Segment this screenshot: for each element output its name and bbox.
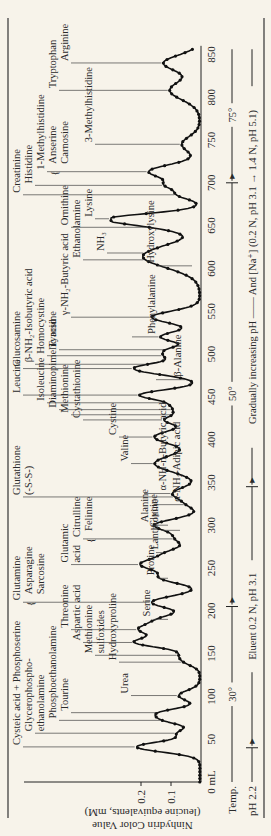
peak-label-text: sulfoxides [95,610,106,653]
data-point [176,270,179,273]
data-point [180,691,183,694]
temp-label: Temp. [226,786,238,814]
data-point [178,657,181,660]
temp-segment-label: 50° [227,386,238,401]
data-point [172,411,175,414]
data-point [161,359,164,362]
data-point [154,750,157,753]
peak-label-text: Anserine [47,125,58,163]
data-point [196,301,199,304]
data-point [179,78,182,81]
data-point [147,171,150,174]
data-point [164,65,167,68]
data-point [171,407,174,410]
peak-label-text: Glucosamine [11,311,22,367]
data-point [183,147,186,150]
data-point [190,507,193,510]
data-point [139,630,142,633]
data-point [181,236,184,239]
x-tick-label: 700 [205,174,217,191]
data-point [191,48,194,51]
data-point [175,96,178,99]
data-point [178,544,181,547]
data-point [180,75,183,78]
data-point [171,68,174,71]
peak-label: Ethanolamine [71,199,143,260]
elution-conditions: Temp.30°▸50°▸75°pH 2.2▸Eluent 0.2 N, pH … [225,49,259,816]
data-point [175,650,178,653]
brace-glyph: { [25,601,36,606]
data-point [188,198,191,201]
data-point [141,643,144,646]
data-point [182,661,185,664]
peak-label: Lysine [83,188,109,218]
data-point [183,51,186,54]
ph-label: pH 2.2 [246,786,258,816]
x-tick-label: 350 [205,474,217,491]
data-point [140,565,143,568]
data-point [168,404,171,407]
peak-label-text: Sarcosine [35,553,46,594]
peak-label: Arginine [59,23,161,62]
peak-label-text: Creatinine [11,149,22,193]
data-point [173,191,176,194]
x-tick-label: 0 mL [205,770,217,794]
data-point [192,205,195,208]
data-point [161,352,164,355]
y-tick-label: 0.2 [135,790,147,804]
peak-label-text: Carnosine [59,121,70,164]
data-point [183,705,186,708]
data-point [177,328,180,331]
data-point [163,551,166,554]
y-axis-title-line1: Ninhydrin Color Value [92,820,193,832]
data-point [174,54,177,57]
data-point [188,702,191,705]
data-point [175,733,178,736]
data-point [163,164,166,167]
chromatogram-figure: 0.10.2Ninhydrin Color Value(leucine equi… [0,0,271,836]
data-point [165,596,168,599]
data-point [182,99,185,102]
data-point [173,722,176,725]
chromatogram-chart: 0.10.2Ninhydrin Color Value(leucine equi… [0,0,271,836]
peak-annotations: Cysteic acid + PhosphoserineGlycerophosp… [11,23,192,746]
data-point [161,178,164,181]
data-point [180,143,183,146]
data-point [188,102,191,105]
data-point [198,777,201,780]
arrowhead-icon: ▸ [246,477,257,483]
y-tick-label: 0.1 [165,790,177,804]
data-point [153,435,156,438]
data-point [198,294,201,297]
x-tick-label: 450 [205,388,217,405]
arrowhead-icon: ▸ [226,597,237,603]
data-point [198,770,201,773]
data-point [176,209,179,212]
peak-label-text: ethanolamine [35,674,46,731]
x-tick-label: 250 [205,559,217,576]
data-point [178,233,181,236]
data-point [143,623,146,626]
peak-label-text: Urea [119,673,130,694]
peak-label-text: Phenylalanine [146,274,157,334]
data-point [123,222,126,225]
y-axis: 0.10.2Ninhydrin Color Value(leucine equi… [24,782,201,832]
temp-segment-label: 30° [227,687,238,702]
data-point [156,246,159,249]
data-point [170,92,173,95]
data-point [172,609,175,612]
data-point [196,284,199,287]
data-point [178,195,181,198]
data-point [190,304,193,307]
peak-label-text: Glutamic [59,523,70,562]
data-point [171,534,174,537]
data-point [173,387,176,390]
data-point [169,613,172,616]
x-tick-label: 100 [205,688,217,705]
data-point [139,561,142,564]
data-point [163,606,166,609]
data-point [181,592,184,595]
peak-label: NH₃ [95,232,143,253]
peak-label-text: Hydroxylysine [145,200,156,263]
data-point [159,335,162,338]
